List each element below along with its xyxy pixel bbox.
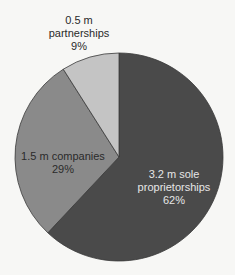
label-partnerships-count: 0.5 m	[48, 14, 110, 27]
label-sole-count: 3.2 m sole	[124, 168, 224, 181]
pie-chart	[0, 0, 235, 275]
label-sole-proprietorships: 3.2 m sole proprietorships 62%	[124, 168, 224, 207]
label-sole-percent: 62%	[124, 194, 224, 207]
label-sole-name: proprietorships	[124, 181, 224, 194]
label-companies-count: 1.5 m companies	[18, 150, 108, 163]
label-partnerships-percent: 9%	[48, 40, 110, 53]
label-companies: 1.5 m companies 29%	[18, 150, 108, 176]
label-companies-percent: 29%	[18, 163, 108, 176]
label-partnerships-name: partnerships	[48, 27, 110, 40]
label-partnerships: 0.5 m partnerships 9%	[48, 14, 110, 53]
